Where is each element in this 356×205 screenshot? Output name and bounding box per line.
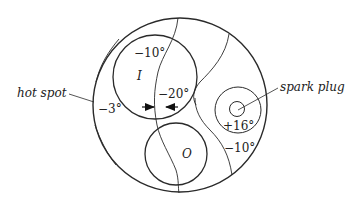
hot-spot-label: hot spot bbox=[17, 86, 67, 100]
outlet-valve-label: O bbox=[182, 147, 192, 161]
temp-spark-plug: +16° bbox=[223, 119, 254, 133]
outlet-valve-circle bbox=[145, 123, 207, 185]
spark-plug-label: spark plug bbox=[280, 80, 345, 94]
temp-between-valves: −20° bbox=[158, 87, 189, 101]
intake-valve-label: I bbox=[136, 69, 142, 83]
hot-spot-leader bbox=[69, 94, 94, 102]
temp-intake-top: −10° bbox=[134, 46, 165, 60]
spark-plug-leader bbox=[238, 88, 278, 110]
hot-spot-lens-upper bbox=[96, 39, 119, 82]
temp-right-lower: −10° bbox=[224, 141, 255, 155]
isotherm-right-lower bbox=[195, 98, 232, 175]
cylinder-head-diagram: hot spot spark plug I O −10° −20° −3° +1… bbox=[0, 0, 356, 205]
isotherm-upper-right bbox=[194, 34, 229, 105]
temp-left-region: −3° bbox=[98, 102, 122, 116]
hot-spot-lens-lower bbox=[95, 125, 116, 165]
isotherm-center bbox=[154, 18, 179, 193]
spark-plug-circle bbox=[230, 102, 245, 117]
